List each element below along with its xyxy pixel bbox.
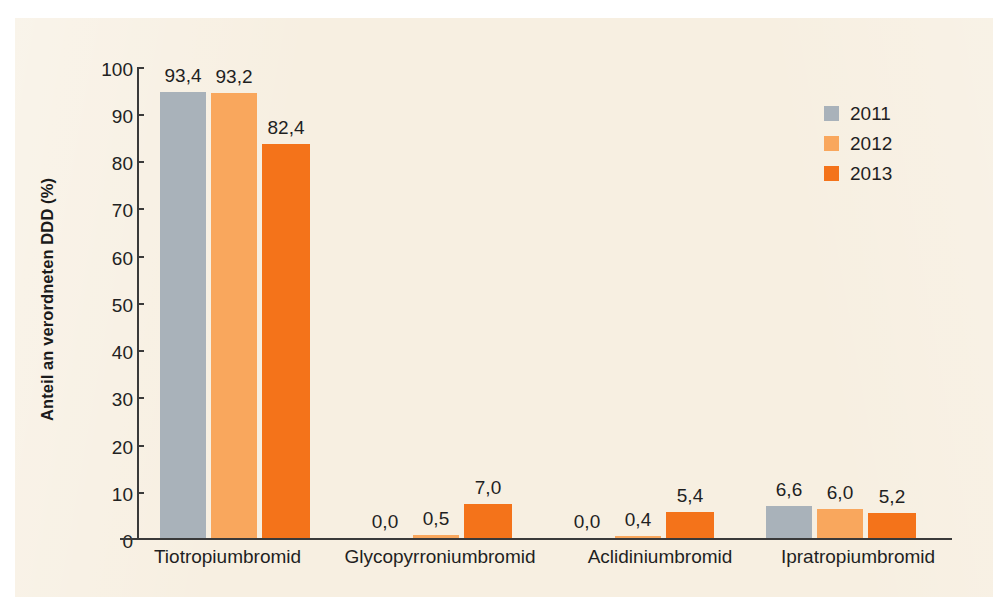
bar-value-2011-tiotropiumbromid: 93,4 — [165, 66, 202, 85]
bar-value-2012-aclidiniumbromid: 0,4 — [625, 510, 651, 529]
bar-2011-ipratropiumbromid[interactable]: 6,6 — [766, 506, 812, 538]
legend-label-2011: 2011 — [850, 104, 891, 123]
bar-2012-tiotropiumbromid[interactable]: 93,2 — [211, 93, 257, 538]
legend-swatch-2011-icon — [824, 106, 839, 121]
y-tick-label-10: 10 — [89, 485, 133, 504]
bar-2013-tiotropiumbromid[interactable]: 82,4 — [262, 144, 310, 538]
bar-value-2012-glycopyrroniumbromid: 0,5 — [423, 509, 449, 528]
legend-item-2013[interactable]: 2013 — [824, 158, 892, 188]
bar-2012-aclidiniumbromid[interactable]: 0,4 — [615, 536, 661, 538]
x-label-tiotropiumbromid: Tiotropiumbromid — [140, 546, 315, 568]
bar-value-2011-ipratropiumbromid: 6,6 — [776, 480, 802, 499]
y-tick-label-90: 90 — [89, 107, 133, 126]
x-label-aclidiniumbromid: Aclidiniumbromid — [560, 546, 760, 568]
bar-value-2013-ipratropiumbromid: 5,2 — [879, 487, 905, 506]
bar-group-glycopyrroniumbromid: 0,0 0,5 7,0 — [360, 60, 525, 538]
y-tick-label-40: 40 — [89, 343, 133, 362]
y-axis-title: Anteil an verordneten DDD (%) — [38, 135, 57, 465]
bar-group-tiotropiumbromid: 93,4 93,2 82,4 — [158, 60, 323, 538]
y-tick-label-20: 20 — [89, 438, 133, 457]
bar-value-2013-glycopyrroniumbromid: 7,0 — [475, 478, 501, 497]
bar-2013-aclidiniumbromid[interactable]: 5,4 — [666, 512, 714, 538]
y-tick-label-80: 80 — [89, 154, 133, 173]
bar-value-2012-tiotropiumbromid: 93,2 — [216, 67, 253, 86]
bar-2011-tiotropiumbromid[interactable]: 93,4 — [160, 92, 206, 538]
legend-swatch-2012-icon — [824, 136, 839, 151]
bar-2013-glycopyrroniumbromid[interactable]: 7,0 — [464, 504, 512, 538]
y-tick-label-60: 60 — [89, 249, 133, 268]
bar-2012-glycopyrroniumbromid[interactable]: 0,5 — [413, 535, 459, 538]
bar-value-2012-ipratropiumbromid: 6,0 — [827, 483, 853, 502]
bar-value-2011-glycopyrroniumbromid: 0,0 — [372, 512, 398, 531]
y-tick-label-100: 100 — [89, 60, 133, 79]
x-label-glycopyrroniumbromid: Glycopyrroniumbromid — [325, 546, 555, 568]
bar-value-2011-aclidiniumbromid: 0,0 — [574, 512, 600, 531]
legend-label-2013: 2013 — [850, 164, 892, 183]
legend-label-2012: 2012 — [850, 134, 892, 153]
x-axis-line — [120, 538, 952, 540]
x-label-ipratropiumbromid: Ipratropiumbromid — [758, 546, 958, 568]
legend-item-2011[interactable]: 2011 — [824, 98, 892, 128]
bar-2012-ipratropiumbromid[interactable]: 6,0 — [817, 509, 863, 538]
bar-group-aclidiniumbromid: 0,0 0,4 5,4 — [562, 60, 727, 538]
bar-value-2013-aclidiniumbromid: 5,4 — [677, 486, 703, 505]
bar-value-2013-tiotropiumbromid: 82,4 — [268, 118, 305, 137]
legend-item-2012[interactable]: 2012 — [824, 128, 892, 158]
y-tick-label-70: 70 — [89, 201, 133, 220]
y-tick-label-30: 30 — [89, 390, 133, 409]
legend-swatch-2013-icon — [824, 166, 839, 181]
bar-chart: Anteil an verordneten DDD (%) 100 90 80 … — [0, 0, 1005, 616]
legend: 2011 2012 2013 — [824, 98, 892, 188]
y-tick-label-50: 50 — [89, 296, 133, 315]
y-tick-label-0: 0 — [89, 532, 133, 551]
y-axis-tick-labels: 100 90 80 70 60 50 40 30 20 10 0 — [75, 0, 133, 560]
bar-2013-ipratropiumbromid[interactable]: 5,2 — [868, 513, 916, 538]
